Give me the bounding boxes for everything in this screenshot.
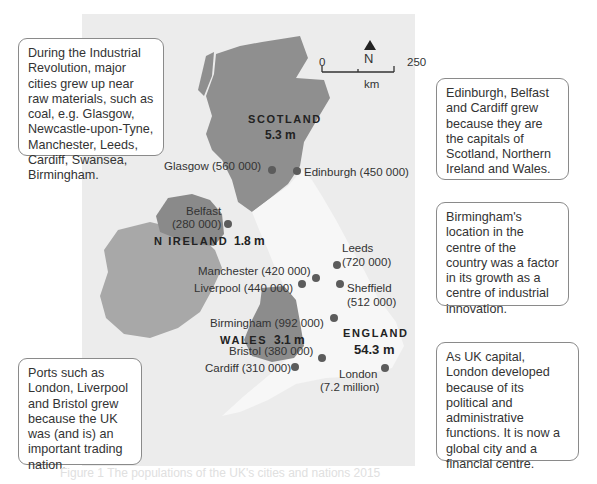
label-sheffield-pop: (512 000) bbox=[347, 296, 396, 309]
city-dot-birmingham bbox=[330, 314, 338, 322]
city-dot-liverpool bbox=[298, 280, 306, 288]
label-edinburgh: Edinburgh (450 000) bbox=[304, 166, 409, 179]
info-box-birmingham: Birmingham's location in the centre of t… bbox=[436, 202, 569, 306]
city-dot-edinburgh bbox=[293, 167, 301, 175]
nation-nireland: N IRELAND bbox=[154, 235, 228, 248]
info-box-ports: Ports such as London, Liverpool and Bris… bbox=[18, 358, 142, 465]
figure-caption: Figure 1 The populations of the UK's cit… bbox=[60, 466, 380, 480]
info-box-capitals: Edinburgh, Belfast and Cardiff grew beca… bbox=[436, 78, 569, 180]
scale-unit: km bbox=[364, 78, 379, 91]
label-manchester: Manchester (420 000) bbox=[198, 265, 311, 278]
nation-england: ENGLAND bbox=[343, 327, 409, 340]
label-leeds-name: Leeds bbox=[342, 242, 373, 255]
nation-scotland: SCOTLAND bbox=[248, 113, 322, 126]
pop-nireland: 1.8 m bbox=[234, 234, 265, 248]
city-dot-manchester bbox=[312, 274, 320, 282]
north-arrow-icon bbox=[364, 40, 376, 50]
label-leeds-pop: (720 000) bbox=[342, 256, 391, 269]
city-dot-glasgow bbox=[268, 166, 276, 174]
label-liverpool: Liverpool (440 000) bbox=[194, 282, 293, 295]
north-label: N bbox=[364, 52, 373, 65]
city-dot-bristol bbox=[318, 354, 326, 362]
city-dot-london bbox=[381, 364, 389, 372]
label-belfast-pop: (280 000) bbox=[172, 218, 221, 231]
label-birmingham: Birmingham (992 000) bbox=[210, 317, 324, 330]
label-london-name: London bbox=[339, 368, 377, 381]
pop-england: 54.3 m bbox=[354, 342, 394, 357]
label-glasgow: Glasgow (560 000) bbox=[164, 160, 261, 173]
city-dot-leeds bbox=[333, 261, 341, 269]
label-london-pop: (7.2 million) bbox=[320, 381, 379, 394]
label-sheffield-name: Sheffield bbox=[347, 282, 392, 295]
pop-scotland: 5.3 m bbox=[265, 128, 296, 142]
city-dot-sheffield bbox=[336, 280, 344, 288]
label-belfast-name: Belfast bbox=[186, 205, 221, 218]
info-box-london: As UK capital, London developed because … bbox=[436, 342, 579, 461]
info-box-industrial: During the Industrial Revolution, major … bbox=[18, 38, 164, 156]
label-bristol: Bristol (380 000) bbox=[229, 345, 313, 358]
scale-zero: 0 bbox=[319, 56, 325, 69]
label-cardiff: Cardiff (310 000) bbox=[205, 362, 291, 375]
city-dot-cardiff bbox=[291, 363, 299, 371]
scale-max: 250 bbox=[407, 56, 426, 69]
city-dot-belfast bbox=[224, 220, 232, 228]
